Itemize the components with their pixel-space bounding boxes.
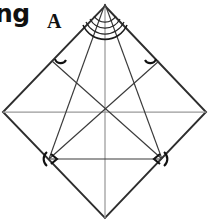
vertex-label-a: A bbox=[47, 11, 61, 31]
upper-left-edge-tick bbox=[55, 59, 66, 63]
base-right-to-upper-left bbox=[52, 61, 162, 159]
geometry-diagram bbox=[0, 0, 211, 221]
apex-to-base-right bbox=[105, 4, 162, 159]
cropped-word-fragment: ng bbox=[0, 1, 30, 26]
geometry-figure-container: ng A bbox=[0, 0, 211, 221]
base-right-angle-mark bbox=[164, 152, 167, 166]
base-left-to-upper-right bbox=[49, 61, 159, 159]
upper-right-edge-tick bbox=[145, 59, 156, 63]
base-left-angle-mark bbox=[44, 152, 47, 166]
